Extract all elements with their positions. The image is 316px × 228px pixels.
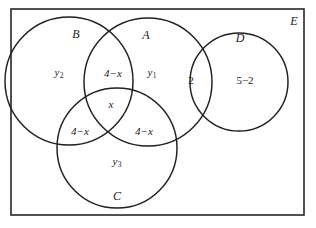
region-label-a-only: y1	[148, 67, 157, 80]
background	[0, 0, 316, 228]
set-label-c: C	[113, 190, 121, 202]
region-label-a-b-and-c: x	[109, 99, 114, 110]
region-label-d-only: 5−2	[236, 75, 253, 86]
region-label-b-and-c: 4−x	[71, 126, 89, 137]
universe-label-e: E	[290, 15, 297, 27]
region-label-c-only: y3	[113, 156, 122, 169]
region-label-a-and-d: 2	[188, 75, 194, 86]
venn-diagram-canvas	[0, 0, 316, 228]
set-label-a: A	[142, 29, 149, 41]
set-label-d: D	[236, 32, 245, 44]
region-label-a-and-c: 4−x	[135, 126, 153, 137]
region-label-a-and-b: 4−x	[104, 68, 122, 79]
venn-diagram-figure: B A D C E y2 4−x y1 2 5−2 x 4−x 4−x y3	[0, 0, 316, 228]
region-label-b-only: y2	[55, 67, 64, 80]
set-label-b: B	[72, 28, 79, 40]
